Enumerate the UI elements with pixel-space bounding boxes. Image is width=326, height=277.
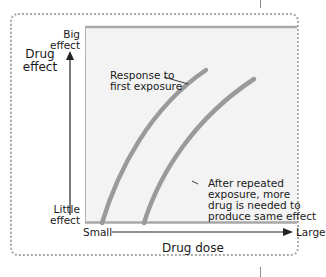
y-top-label-line2: effect (48, 40, 80, 51)
x-axis-arrowhead-icon (283, 228, 293, 236)
x-left-label: Small (83, 227, 112, 238)
y-bottom-label: Little effect (46, 204, 80, 226)
y-bottom-label-line2: effect (46, 215, 80, 226)
y-axis-arrowhead-icon (66, 51, 74, 60)
curve1-annotation: Response to first exposure (110, 70, 182, 92)
y-axis-title-line2: effect (22, 61, 58, 74)
y-top-label: Big effect (48, 29, 80, 51)
curve1-annotation-line2: first exposure (110, 81, 182, 92)
curve2-annotation-line4: produce same effect (208, 211, 316, 222)
x-right-label: Large (296, 227, 326, 238)
x-axis-title: Drug dose (162, 242, 224, 255)
curve2-annotation: After repeated exposure, more drug is ne… (208, 178, 316, 222)
y-axis-title: Drug effect (22, 48, 58, 74)
